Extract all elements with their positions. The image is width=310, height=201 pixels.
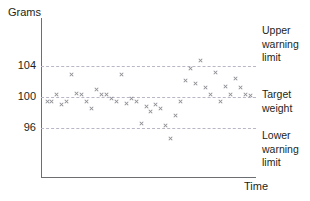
data-point	[79, 92, 84, 97]
data-point	[193, 81, 198, 86]
data-point	[114, 99, 119, 104]
data-point	[54, 92, 59, 97]
data-point	[119, 72, 124, 77]
data-point	[248, 93, 253, 98]
data-point	[233, 76, 238, 81]
data-point	[148, 109, 153, 114]
data-point	[49, 99, 54, 104]
scatter-points-layer	[0, 0, 310, 201]
data-point	[203, 85, 208, 90]
data-point	[223, 84, 228, 89]
data-point	[183, 78, 188, 83]
data-point	[163, 123, 168, 128]
data-point	[64, 99, 69, 104]
data-point	[84, 99, 89, 104]
data-point	[218, 99, 223, 104]
data-point	[89, 106, 94, 111]
data-point	[213, 70, 218, 75]
data-point	[238, 85, 243, 90]
data-point	[173, 113, 178, 118]
data-point	[158, 106, 163, 111]
data-point	[208, 92, 213, 97]
data-point	[94, 87, 99, 92]
data-point	[69, 72, 74, 77]
data-point	[168, 136, 173, 141]
control-chart: Grams 104 100 96 Upper warning limit Tar…	[0, 0, 310, 201]
data-point	[228, 92, 233, 97]
data-point	[198, 58, 203, 63]
data-point	[188, 66, 193, 71]
data-point	[178, 99, 183, 104]
data-point	[139, 121, 144, 126]
x-axis-title: Time	[244, 180, 268, 192]
data-point	[134, 99, 139, 104]
data-point	[124, 101, 129, 106]
